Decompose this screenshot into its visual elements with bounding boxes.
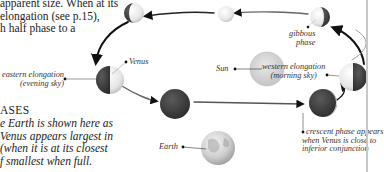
- venus-new: [160, 89, 190, 119]
- label-venus: Venus: [129, 57, 148, 66]
- label-eastern-elongation: eastern elongation (evening sky): [0, 70, 64, 88]
- section-title: ASES: [0, 104, 29, 116]
- label-sun: Sun: [216, 64, 228, 73]
- label-gibbous-phase: gibbous phase: [284, 29, 315, 47]
- venus-full: [218, 6, 234, 22]
- venus-eastern-elongation: [96, 66, 124, 94]
- venus-crescent-inferior: [309, 89, 337, 117]
- venus-western-elongation: [339, 63, 367, 91]
- venus-gibbous: [310, 7, 330, 27]
- page-divider: [366, 0, 368, 172]
- label-crescent-phase: crescent phase appears when Venus is clo…: [306, 128, 384, 154]
- label-earth: Earth: [159, 142, 178, 151]
- venus-crescent-top: [124, 3, 144, 23]
- label-western-elongation: western elongation (morning sky): [262, 62, 325, 80]
- caption-text: e Earth is shown here as Venus appears l…: [0, 117, 113, 167]
